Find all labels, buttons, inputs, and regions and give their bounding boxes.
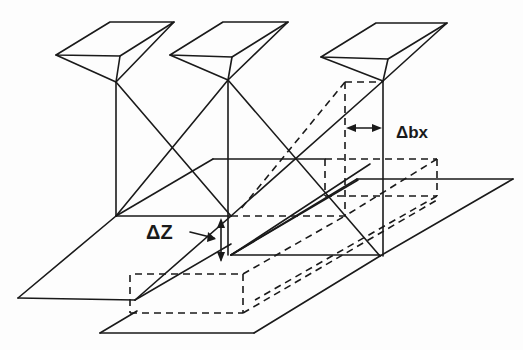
camera-1-icon: [56, 22, 174, 82]
delta-z-label: ΔZ: [146, 221, 173, 244]
delta-bx-label: Δbx: [396, 123, 428, 143]
delta-z-arrow-icon: [190, 218, 225, 262]
diagram-canvas: ΔZ Δbx: [0, 0, 523, 350]
lower-ground-plane: [100, 179, 513, 333]
camera-2-icon: [170, 22, 288, 80]
displaced-outline-dashed: [130, 82, 437, 313]
diagram-drawing: [0, 0, 523, 350]
camera-3-icon: [321, 23, 447, 81]
delta-bx-arrow-icon: [346, 124, 382, 132]
